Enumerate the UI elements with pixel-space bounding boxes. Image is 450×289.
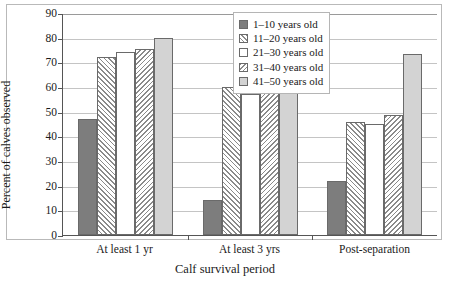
- legend-label: 11–20 years old: [253, 33, 323, 44]
- legend-label: 31–40 years old: [253, 62, 323, 73]
- bar: [154, 38, 173, 235]
- bar: [346, 122, 365, 235]
- bar: [241, 94, 260, 235]
- bar: [327, 181, 346, 235]
- y-axis-tick-label: 30: [46, 156, 58, 168]
- y-axis-tick-label: 90: [46, 8, 58, 20]
- y-axis-tick-label: 40: [46, 132, 58, 144]
- bar-chart: Percent of calves observed 0102030405060…: [0, 0, 450, 289]
- y-axis-title: Percent of calves observed: [0, 50, 14, 240]
- x-axis-tick: [188, 235, 189, 240]
- bar: [203, 200, 222, 235]
- y-axis-tick-label: 50: [46, 107, 58, 119]
- legend-swatch-icon: [239, 20, 248, 29]
- y-axis-tick-label: 20: [46, 181, 58, 193]
- bar: [260, 73, 279, 235]
- x-axis-tick-labels: At least 1 yrAt least 3 yrsPost-separati…: [62, 243, 437, 255]
- y-axis-tick-label: 10: [46, 206, 58, 218]
- bar: [384, 115, 403, 235]
- bar: [78, 119, 97, 235]
- bar: [403, 54, 422, 235]
- y-axis-tick: [58, 236, 63, 237]
- legend-item: 21–30 years old: [239, 46, 323, 60]
- bar: [222, 87, 241, 235]
- x-axis-tick: [312, 235, 313, 240]
- legend-item: 1–10 years old: [239, 17, 323, 31]
- legend-swatch-icon: [239, 48, 248, 57]
- legend: 1–10 years old11–20 years old21–30 years…: [233, 12, 330, 94]
- legend-swatch-icon: [239, 34, 248, 43]
- legend-swatch-icon: [239, 77, 248, 86]
- legend-label: 1–10 years old: [253, 19, 318, 30]
- bar: [365, 124, 384, 235]
- bar-group: [312, 14, 437, 235]
- x-axis-title: Calf survival period: [0, 262, 450, 277]
- y-axis-tick-label: 80: [46, 33, 58, 45]
- bar: [116, 52, 135, 235]
- legend-item: 11–20 years old: [239, 31, 323, 45]
- x-axis-tick-label: At least 1 yr: [62, 243, 187, 255]
- legend-item: 31–40 years old: [239, 60, 323, 74]
- legend-item: 41–50 years old: [239, 75, 323, 89]
- legend-label: 41–50 years old: [253, 76, 323, 87]
- bar-group: [63, 14, 188, 235]
- legend-swatch-icon: [239, 63, 248, 72]
- x-axis-tick-label: Post-separation: [312, 243, 437, 255]
- bar: [135, 49, 154, 235]
- y-axis-tick-label: 0: [51, 230, 57, 242]
- legend-label: 21–30 years old: [253, 47, 323, 58]
- y-axis-tick-label: 60: [46, 82, 58, 94]
- y-axis-tick-label: 70: [46, 58, 58, 70]
- bar: [97, 57, 116, 235]
- x-axis-tick-label: At least 3 yrs: [187, 243, 312, 255]
